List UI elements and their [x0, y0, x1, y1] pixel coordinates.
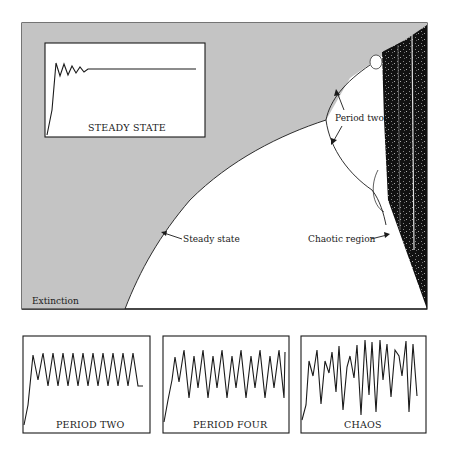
inset-caption: STEADY STATE [88, 122, 166, 133]
panel-caption-period-two: PERIOD TWO [56, 419, 125, 430]
population-bifurcation-figure: Extinction Steady state Period two Chaot… [0, 0, 450, 455]
panel-period-four: PERIOD FOUR [163, 336, 289, 433]
panel-caption-chaos: CHAOS [344, 419, 382, 430]
label-chaotic-region: Chaotic region [308, 234, 376, 244]
period-four-bubble-top [370, 55, 382, 69]
inset-steady-state: STEADY STATE [45, 43, 205, 137]
label-steady-state: Steady state [183, 234, 240, 244]
panel-chaos: CHAOS [301, 336, 426, 433]
panel-period-two: PERIOD TWO [23, 336, 150, 433]
panel-caption-period-four: PERIOD FOUR [193, 419, 268, 430]
label-period-two: Period two [335, 113, 384, 123]
label-extinction: Extinction [32, 296, 79, 306]
main-diagram: Extinction Steady state Period two Chaot… [22, 23, 427, 309]
